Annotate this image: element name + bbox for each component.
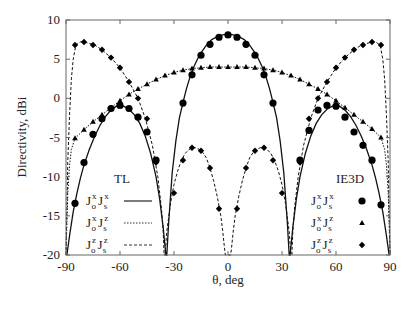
triangle-marker (126, 91, 132, 96)
legend-label: JxoJxs (311, 191, 334, 211)
diamond-marker (144, 116, 150, 122)
triangle-marker (117, 98, 123, 103)
diamond-marker (333, 65, 339, 71)
legend-label: JxoJxs (86, 191, 109, 211)
circle-marker (215, 34, 222, 41)
circle-marker (260, 71, 267, 78)
circle-marker (269, 99, 276, 106)
circle-marker (143, 128, 150, 135)
y-tick-label: 5 (54, 51, 61, 66)
triangle-marker (180, 67, 186, 72)
plot-frame (66, 20, 390, 255)
legend-label: JzoJzs (311, 235, 333, 255)
triangle-marker (369, 126, 375, 131)
y-tick-label: 0 (54, 90, 61, 105)
diamond-marker (279, 190, 285, 196)
circle-marker (251, 52, 258, 59)
diamond-marker (135, 95, 141, 101)
triangle-marker (198, 65, 204, 70)
triangle-marker (207, 64, 213, 69)
diamond-marker (261, 144, 267, 150)
triangle-marker (162, 73, 168, 78)
diamond-marker (126, 79, 132, 85)
diamond-marker (360, 42, 366, 48)
circle-marker (377, 201, 384, 208)
legend-tl-title: TL (114, 171, 130, 186)
triangle-marker (360, 119, 366, 124)
legend-label: JxoJzs (86, 213, 108, 233)
triangle-marker (288, 73, 294, 78)
circle-marker (359, 142, 366, 149)
circle-marker (179, 99, 186, 106)
triangle-marker (99, 112, 105, 117)
legend-ie3d: IE3D JxoJxsJxoJzsJzoJzs (311, 171, 366, 255)
triangle-marker (243, 64, 249, 69)
diamond-marker (315, 95, 321, 101)
circle-marker (71, 200, 78, 207)
triangle-marker (90, 119, 96, 124)
legend-diamond-marker (359, 242, 365, 248)
diamond-marker (72, 42, 78, 48)
tl-curve-3 (66, 42, 390, 255)
y-tick-label: 10 (47, 12, 60, 27)
triangle-marker (270, 67, 276, 72)
legend-circle-marker (358, 197, 365, 204)
circle-marker (224, 31, 231, 38)
circle-marker (350, 128, 357, 135)
diamond-marker (108, 54, 114, 60)
diamond-marker (90, 42, 96, 48)
circle-marker (116, 102, 123, 109)
diamond-marker (243, 165, 249, 171)
diamond-marker (81, 39, 87, 45)
circle-marker (89, 131, 96, 138)
circle-marker (305, 127, 312, 134)
legend-ie3d-title: IE3D (336, 171, 364, 186)
circle-marker (188, 71, 195, 78)
x-tick-label: -60 (111, 259, 128, 274)
y-tick-label: -5 (49, 130, 60, 145)
circle-marker (323, 102, 330, 109)
circle-marker (368, 157, 375, 164)
x-tick-label: 60 (330, 259, 343, 274)
circle-marker (80, 159, 87, 166)
diamond-marker (378, 42, 384, 48)
legend-label: JxoJzs (311, 213, 333, 233)
triangle-marker (171, 69, 177, 74)
triangle-marker (324, 91, 330, 96)
circle-marker (341, 114, 348, 121)
circle-marker (134, 114, 141, 121)
legend-triangle-marker (359, 220, 365, 225)
directivity-chart: -90-60-3003060901050-5-10-15-20 θ, deg D… (0, 0, 416, 309)
legend-label: JzoJzs (86, 235, 108, 255)
triangle-marker (342, 105, 348, 110)
circle-marker (233, 34, 240, 41)
triangle-marker (135, 86, 141, 91)
circle-marker (206, 41, 213, 48)
x-tick-label: 30 (276, 259, 289, 274)
x-tick-label: -30 (165, 259, 182, 274)
diamond-marker (207, 165, 213, 171)
diamond-marker (234, 206, 240, 212)
triangle-marker (252, 65, 258, 70)
circle-marker (332, 103, 339, 110)
triangle-marker (234, 64, 240, 69)
tl-curve-2 (66, 67, 390, 255)
diamond-marker (216, 206, 222, 212)
y-axis-title: Directivity, dBi (14, 96, 29, 177)
y-tick-label: -20 (43, 247, 60, 262)
triangle-marker (216, 64, 222, 69)
circle-marker (242, 41, 249, 48)
x-tick-label: 90 (384, 259, 397, 274)
y-tick-label: -15 (43, 208, 60, 223)
triangle-marker (306, 81, 312, 86)
triangle-marker (333, 98, 339, 103)
circle-marker (125, 105, 132, 112)
circle-marker (197, 52, 204, 59)
x-axis-title: θ, deg (212, 272, 244, 287)
y-tick-label: -10 (43, 169, 60, 184)
triangle-marker (225, 64, 231, 69)
diamond-marker (189, 144, 195, 150)
diamond-marker (324, 79, 330, 85)
circle-marker (314, 106, 321, 113)
diamond-marker (270, 157, 276, 163)
